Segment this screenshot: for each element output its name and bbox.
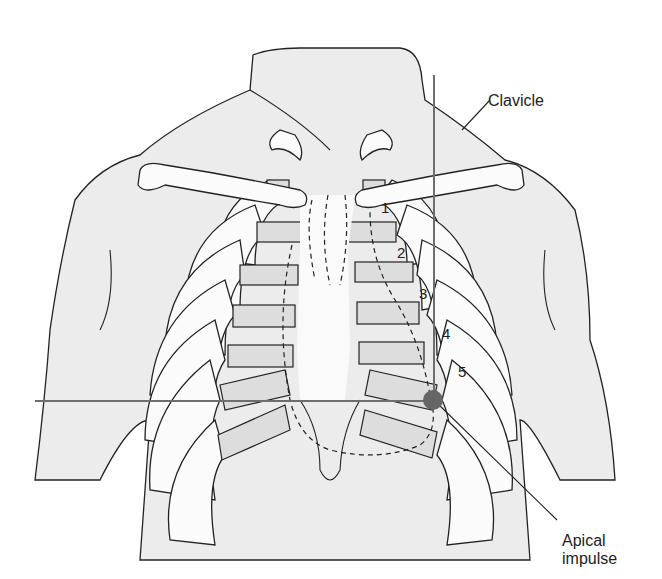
intercostal-space-5: 5 bbox=[458, 363, 466, 380]
apical-impulse-marker bbox=[423, 390, 443, 410]
apical-impulse-label-line1: Apical bbox=[562, 532, 617, 550]
intercostal-space-3: 3 bbox=[419, 285, 427, 302]
clavicle-label: Clavicle bbox=[488, 92, 544, 110]
intercostal-space-2: 2 bbox=[397, 244, 405, 261]
chest-anatomy-diagram bbox=[0, 0, 662, 579]
apical-impulse-label: Apical impulse bbox=[562, 532, 617, 568]
intercostal-space-1: 1 bbox=[381, 199, 389, 216]
intercostal-space-4: 4 bbox=[442, 325, 450, 342]
apical-impulse-label-line2: impulse bbox=[562, 550, 617, 568]
clavicle-leader-line bbox=[462, 100, 490, 130]
